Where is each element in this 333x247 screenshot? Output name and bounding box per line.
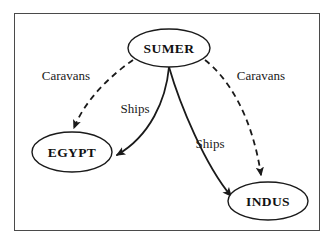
diagram-page: SUMER EGYPT INDUS Caravans Caravans Ship… <box>0 0 333 247</box>
edge-label-caravans-left: Caravans <box>42 68 90 83</box>
node-egypt-label: EGYPT <box>48 145 97 160</box>
diagram-canvas: SUMER EGYPT INDUS Caravans Caravans Ship… <box>0 0 333 247</box>
node-indus-label: INDUS <box>246 194 290 209</box>
node-indus[interactable]: INDUS <box>228 182 308 220</box>
edge-label-ships-right: Ships <box>196 136 225 151</box>
node-sumer-label: SUMER <box>144 41 195 56</box>
edge-sumer-indus-ships <box>169 67 231 196</box>
node-sumer[interactable]: SUMER <box>128 29 210 67</box>
edge-label-ships-left: Ships <box>121 101 150 116</box>
node-egypt[interactable]: EGYPT <box>32 132 112 172</box>
edge-label-caravans-right: Caravans <box>237 68 285 83</box>
